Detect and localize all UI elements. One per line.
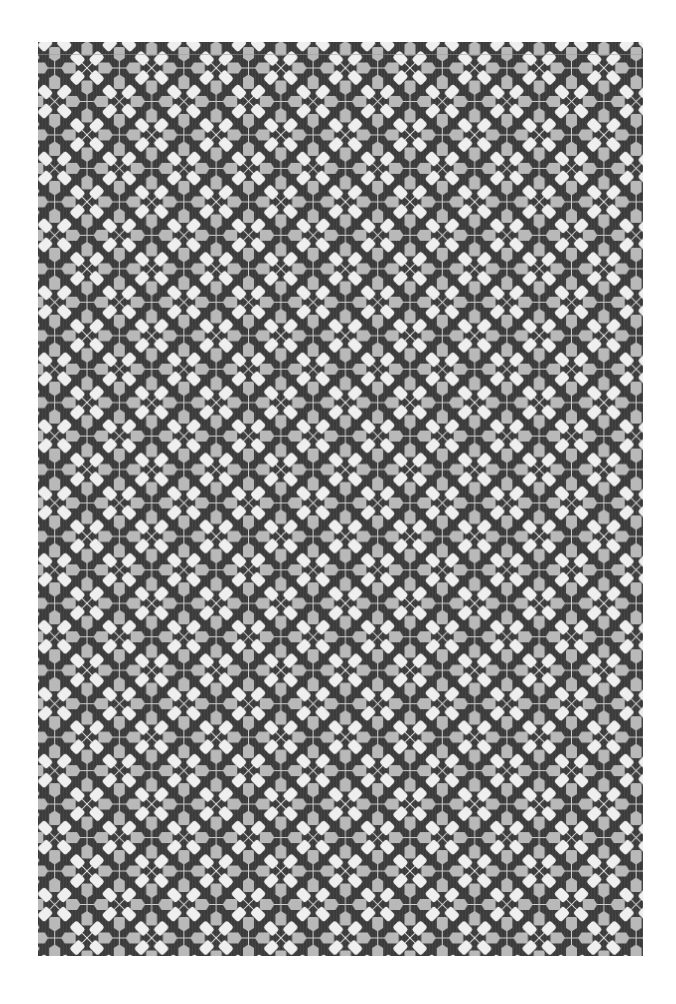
photo-canvas: Fabric swatch with repeating geometric f…: [0, 0, 676, 1004]
fabric-swatch: [38, 42, 643, 956]
floral-pattern: [38, 42, 643, 956]
